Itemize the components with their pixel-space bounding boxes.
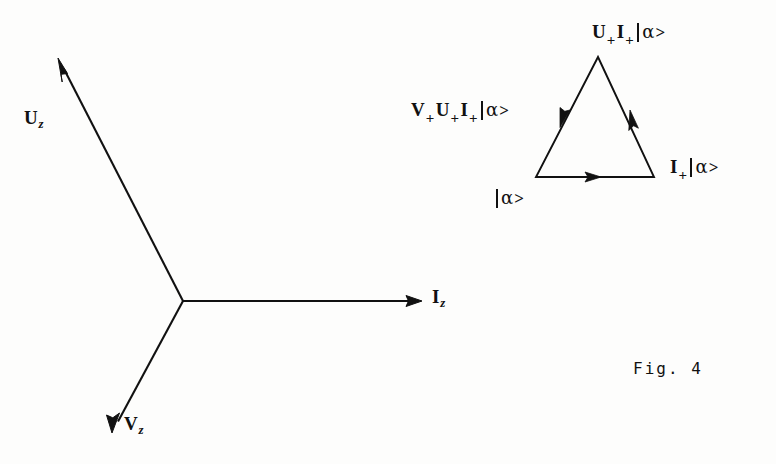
- dagger-plus: +: [426, 110, 435, 126]
- ket-bar: [481, 101, 483, 120]
- ket-bar: [496, 189, 498, 208]
- dagger-plus: +: [451, 110, 460, 126]
- triangle-label-left: V+U+I+α>: [411, 100, 509, 126]
- vector-Uz: [58, 58, 183, 301]
- vector-Iz: [183, 296, 422, 307]
- dagger-plus: +: [469, 110, 478, 126]
- operator-U: U: [592, 21, 606, 42]
- operator-I: I: [461, 99, 469, 120]
- arrowhead-Uz: [58, 58, 68, 82]
- vector-label-Iz: Iz: [432, 287, 446, 309]
- arrowhead-Vz: [107, 413, 120, 433]
- vector-label-Uz-sub: z: [39, 116, 44, 131]
- ket-angle: >: [655, 23, 665, 42]
- vector-label-Iz-main: I: [432, 286, 440, 307]
- operator-I: I: [617, 21, 625, 42]
- triangle-label-right: I+α>: [670, 157, 718, 183]
- alpha-symbol: α: [486, 99, 498, 120]
- ket-angle: >: [514, 189, 524, 208]
- vector-label-Uz: Uz: [24, 108, 44, 130]
- triangle-outline: [536, 57, 654, 177]
- vector-label-Uz-main: U: [24, 107, 38, 128]
- vector-Vz: [107, 301, 184, 433]
- dagger-plus: +: [625, 32, 634, 48]
- ket-bar: [690, 158, 692, 177]
- figure-vector-graphics: [0, 0, 776, 464]
- vector-label-Vz-main: V: [124, 413, 138, 434]
- triangle-group: [536, 57, 654, 182]
- triangle-label-bottom: α>: [494, 188, 524, 208]
- alpha-symbol: α: [695, 156, 707, 177]
- operator-I: I: [670, 156, 678, 177]
- vector-star-group: [58, 58, 422, 433]
- ket-angle: >: [709, 158, 719, 177]
- triangle-label-top: U+I+α>: [592, 22, 665, 48]
- operator-U: U: [436, 99, 450, 120]
- figure-canvas: Uz Iz Vz U+I+α> V+U+I+α> I+α> α> Fig. 4: [0, 0, 776, 464]
- ket-bar: [637, 23, 639, 42]
- arrowhead-left-edge: [560, 108, 570, 128]
- dagger-plus: +: [607, 32, 616, 48]
- arrowhead-right-edge: [629, 110, 639, 131]
- alpha-symbol: α: [642, 21, 654, 42]
- figure-caption: Fig. 4: [633, 361, 703, 377]
- alpha-symbol: α: [501, 187, 513, 208]
- ket-angle: >: [499, 101, 509, 120]
- vector-label-Iz-sub: z: [440, 295, 445, 310]
- arrowhead-Iz: [406, 296, 422, 307]
- vector-label-Vz-sub: z: [139, 422, 144, 437]
- dagger-plus: +: [678, 167, 687, 183]
- operator-V: V: [411, 99, 425, 120]
- vector-label-Vz: Vz: [124, 414, 144, 436]
